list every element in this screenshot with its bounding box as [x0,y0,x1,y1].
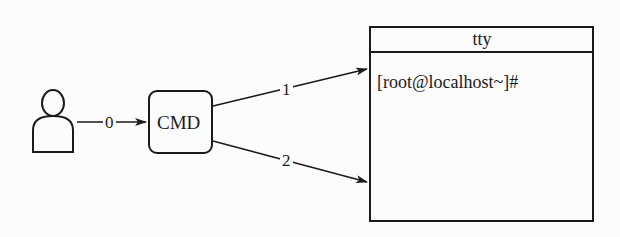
edge-1-label: 1 [280,81,293,98]
tty-prompt: [root@localhost~]# [377,72,518,93]
person-icon [33,90,73,152]
edge-2-label: 2 [280,152,293,169]
cmd-node-label: CMD [157,112,200,134]
tty-terminal-box [370,27,593,221]
tty-title: tty [371,29,593,50]
edge-0-label: 0 [103,114,116,131]
